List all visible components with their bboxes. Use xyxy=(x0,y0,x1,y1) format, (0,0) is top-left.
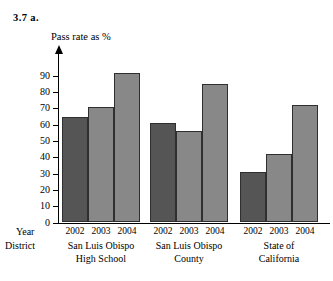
year-label: 2003 xyxy=(176,226,202,236)
group-label-line1: San Luis Obispo xyxy=(50,240,152,253)
y-axis-tick-mark xyxy=(53,76,59,77)
y-axis-tick-mark xyxy=(53,141,59,142)
group-label-line2: High School xyxy=(50,253,152,266)
year-label: 2003 xyxy=(88,226,114,236)
y-axis-tick-mark xyxy=(53,174,59,175)
y-axis-tick-label: 80 xyxy=(28,85,50,98)
group-label-line1: State of xyxy=(228,240,330,253)
bar-chart: Pass rate as % 0102030405060708090 20022… xyxy=(0,0,333,281)
bar xyxy=(62,117,88,223)
y-axis-tick-label: 90 xyxy=(28,69,50,82)
bar xyxy=(88,107,114,223)
group-label-line2: County xyxy=(138,253,240,266)
y-axis-tick-mark xyxy=(53,108,59,109)
x-axis-line xyxy=(58,223,330,224)
year-label: 2004 xyxy=(202,226,228,236)
y-axis-tick-mark xyxy=(53,206,59,207)
y-axis-tick-mark xyxy=(53,92,59,93)
y-axis-tick-label: 30 xyxy=(28,167,50,180)
y-axis-tick-mark xyxy=(53,190,59,191)
row-header-year: Year xyxy=(16,226,34,237)
y-axis-tick-label: 40 xyxy=(28,150,50,163)
bar xyxy=(150,123,176,222)
y-axis-tick-label: 50 xyxy=(28,134,50,147)
year-label: 2003 xyxy=(266,226,292,236)
group-label-line1: San Luis Obispo xyxy=(138,240,240,253)
bar xyxy=(240,172,266,223)
bar xyxy=(266,154,292,222)
year-label: 2002 xyxy=(240,226,266,236)
group-label: State ofCalifornia xyxy=(228,240,330,265)
bar xyxy=(202,84,228,223)
year-label: 2004 xyxy=(114,226,140,236)
group-label: San Luis ObispoHigh School xyxy=(50,240,152,265)
y-axis-tick-mark xyxy=(53,223,59,224)
y-axis-line xyxy=(58,52,59,223)
y-axis-tick-label: 60 xyxy=(28,118,50,131)
group-label: San Luis ObispoCounty xyxy=(138,240,240,265)
y-axis-title: Pass rate as % xyxy=(51,31,111,42)
y-axis-tick-label: 20 xyxy=(28,183,50,196)
y-axis-tick-mark xyxy=(53,157,59,158)
group-label-line2: California xyxy=(228,253,330,266)
year-label: 2002 xyxy=(150,226,176,236)
y-axis-tick-mark xyxy=(53,125,59,126)
bar xyxy=(292,105,318,222)
year-label: 2002 xyxy=(62,226,88,236)
y-axis-tick-label: 70 xyxy=(28,101,50,114)
bar xyxy=(176,131,202,222)
bar xyxy=(114,73,140,223)
y-axis-tick-label: 10 xyxy=(28,199,50,212)
year-label: 2004 xyxy=(292,226,318,236)
row-header-district: District xyxy=(5,240,35,251)
